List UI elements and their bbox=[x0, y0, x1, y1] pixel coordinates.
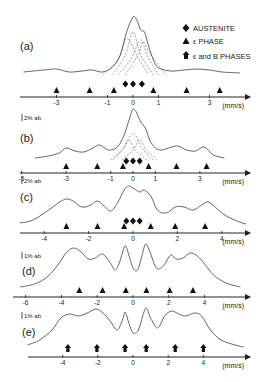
x-tick-label: 1 bbox=[153, 175, 157, 182]
diamond-icon bbox=[130, 218, 136, 225]
subspectrum-curve bbox=[113, 32, 154, 75]
diamond-icon bbox=[137, 158, 143, 165]
triangle-icon bbox=[172, 223, 178, 229]
triangle-icon bbox=[76, 287, 82, 293]
panel-c: -4-2024(mm/s)(c)2% ab bbox=[20, 177, 250, 246]
legend-epsilon-b-label: ε and B PHASES bbox=[193, 52, 251, 61]
arrow-marker-icon bbox=[143, 344, 149, 352]
x-tick-label: 2 bbox=[176, 235, 180, 242]
x-tick-label: 0 bbox=[131, 99, 135, 106]
diamond-icon bbox=[137, 218, 143, 225]
arrow-marker-icon bbox=[183, 51, 190, 59]
x-tick-label: 3 bbox=[208, 99, 212, 106]
triangle-icon bbox=[183, 38, 190, 45]
triangle-icon bbox=[167, 287, 173, 293]
x-tick-label: -2 bbox=[94, 299, 100, 306]
x-tick-label: 4 bbox=[202, 359, 206, 366]
x-tick-label: 0 bbox=[131, 359, 135, 366]
x-tick-label: 3 bbox=[198, 175, 202, 182]
x-axis-unit-label: (mm/s) bbox=[222, 238, 244, 246]
panel-label: (c) bbox=[20, 191, 33, 203]
triangle-icon bbox=[111, 87, 117, 93]
triangle-icon bbox=[150, 87, 156, 93]
triangle-icon bbox=[63, 223, 69, 229]
triangle-icon bbox=[87, 87, 93, 93]
legend-austenite: AUSTENITE bbox=[183, 24, 236, 33]
triangle-icon bbox=[100, 287, 106, 293]
scale-label: 2% ab bbox=[24, 115, 42, 121]
x-tick-label: 4 bbox=[203, 299, 207, 306]
x-axis-unit-label: (mm/s) bbox=[222, 362, 244, 370]
legend: AUSTENITE ε PHASE ε and B PHASES bbox=[183, 24, 251, 61]
arrow-marker-icon bbox=[200, 344, 206, 352]
spectrum-curve bbox=[20, 244, 240, 287]
scale-label: 1% ab bbox=[24, 313, 42, 319]
x-tick-label: 2 bbox=[166, 359, 170, 366]
panel-d: -6-4-2024(mm/s)(d)1% ab bbox=[13, 244, 250, 310]
x-tick-label: -6 bbox=[23, 299, 29, 306]
x-axis-unit-label: (mm/s) bbox=[222, 102, 244, 110]
mossbauer-spectra-figure: -3-1013(mm/s)(a)-5-3-1013(mm/s)(b)2% ab-… bbox=[0, 0, 268, 382]
x-tick-label: -3 bbox=[63, 175, 69, 182]
diamond-icon bbox=[183, 24, 190, 32]
spectrum-curve bbox=[35, 109, 225, 158]
triangle-icon bbox=[94, 223, 100, 229]
x-tick-label: 0 bbox=[131, 175, 135, 182]
diamond-icon bbox=[122, 81, 128, 88]
arrow-marker-icon bbox=[94, 344, 100, 352]
x-tick-label: 0 bbox=[131, 235, 135, 242]
diamond-icon bbox=[130, 81, 136, 88]
triangle-icon bbox=[146, 163, 152, 169]
x-tick-label: 2 bbox=[167, 299, 171, 306]
diamond-icon bbox=[130, 158, 136, 165]
triangle-icon bbox=[190, 287, 196, 293]
x-tick-label: -2 bbox=[86, 235, 92, 242]
x-tick-label: 0 bbox=[131, 299, 135, 306]
diamond-icon bbox=[123, 158, 129, 165]
arrow-marker-icon bbox=[122, 344, 128, 352]
triangle-icon bbox=[173, 163, 179, 169]
scale-label: 2% ab bbox=[24, 178, 42, 184]
x-axis-unit-label: (mm/s) bbox=[222, 302, 244, 310]
triangle-icon bbox=[123, 287, 129, 293]
panel-label: (b) bbox=[20, 132, 33, 144]
triangle-icon bbox=[202, 223, 208, 229]
x-axis-unit-label: (mm/s) bbox=[222, 178, 244, 186]
triangle-icon bbox=[148, 223, 154, 229]
x-tick-label: -1 bbox=[105, 99, 111, 106]
legend-epsilon: ε PHASE bbox=[183, 37, 224, 46]
panel-label: (a) bbox=[20, 40, 33, 52]
scale-label: 1% ab bbox=[24, 253, 42, 259]
x-tick-label: -2 bbox=[95, 359, 101, 366]
legend-epsilon-b: ε and B PHASES bbox=[183, 51, 251, 61]
x-tick-label: -4 bbox=[59, 299, 65, 306]
triangle-icon bbox=[94, 163, 100, 169]
triangle-icon bbox=[63, 163, 69, 169]
arrow-marker-icon bbox=[65, 344, 71, 352]
legend-austenite-label: AUSTENITE bbox=[193, 24, 235, 33]
panel-b: -5-3-1013(mm/s)(b)2% ab bbox=[19, 109, 250, 186]
arrow-marker-icon bbox=[172, 344, 178, 352]
triangle-icon bbox=[143, 287, 149, 293]
panel-label: (d) bbox=[22, 265, 35, 277]
triangle-icon bbox=[120, 163, 126, 169]
triangle-icon bbox=[217, 87, 223, 93]
panel-e: -4-2024(mm/s)(e)1% ab bbox=[22, 308, 250, 370]
panel-label: (e) bbox=[22, 326, 35, 338]
spectrum-curve bbox=[27, 308, 244, 347]
x-tick-label: -4 bbox=[41, 235, 47, 242]
triangle-icon bbox=[54, 87, 60, 93]
x-tick-label: -3 bbox=[54, 99, 60, 106]
triangle-icon bbox=[204, 163, 210, 169]
x-tick-label: -1 bbox=[108, 175, 114, 182]
diamond-icon bbox=[139, 81, 145, 88]
legend-epsilon-label: ε PHASE bbox=[193, 37, 224, 46]
triangle-icon bbox=[184, 87, 190, 93]
x-tick-label: -4 bbox=[60, 359, 66, 366]
x-tick-label: 1 bbox=[157, 99, 161, 106]
